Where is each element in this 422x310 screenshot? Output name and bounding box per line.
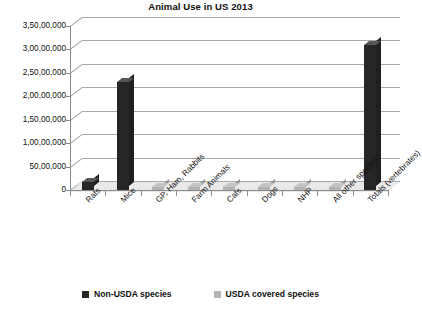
legend-swatch-icon	[214, 291, 221, 298]
y-axis-tick-label: 3,00,00,000	[23, 45, 66, 53]
y-axis-tick-label: 50,00,000	[30, 162, 66, 170]
gridline	[82, 17, 400, 18]
legend-label: USDA covered species	[226, 290, 319, 299]
x-axis-tick-label: Cats	[225, 186, 243, 204]
legend-label: Non-USDA species	[94, 290, 172, 299]
y-axis-tick-label: 3,50,00,000	[23, 22, 66, 30]
gridline-connector	[70, 87, 83, 97]
x-axis-tick-label: Rats	[84, 186, 102, 204]
y-axis-tick-label: 1,50,00,000	[23, 116, 66, 124]
x-axis-label-group: RatsMiceGP, Ham, RabbitsFarm AnimalsCats…	[0, 188, 401, 288]
gridline-connector	[70, 111, 83, 121]
legend-swatch-icon	[82, 291, 89, 298]
x-axis-tick-label: Mice	[119, 186, 138, 205]
x-axis-tick-label: NHP	[296, 186, 315, 205]
gridline-connector	[70, 64, 83, 74]
gridline	[82, 40, 400, 41]
y-axis-line	[70, 26, 71, 191]
chart-legend: Non-USDA speciesUSDA covered species	[0, 286, 401, 302]
gridline-connector	[70, 40, 83, 50]
y-axis-tick-label: 2,50,00,000	[23, 69, 66, 77]
legend-item[interactable]: USDA covered species	[214, 290, 319, 299]
gridline-connector	[70, 134, 83, 144]
gridline	[82, 64, 400, 65]
gridline-connector	[70, 17, 83, 27]
bar-side	[129, 74, 134, 186]
y-axis-tick-label: 2,00,00,000	[23, 92, 66, 100]
legend-item[interactable]: Non-USDA species	[82, 290, 172, 299]
gridline-connector	[70, 158, 83, 168]
bar	[117, 78, 129, 190]
y-axis-tick-label: 1,00,00,000	[23, 139, 66, 147]
x-axis-tick-label: Dogs	[260, 184, 280, 204]
y-axis-label-group: 050,00,0001,00,00,0001,50,00,0002,00,00,…	[0, 0, 66, 200]
bar-face	[117, 82, 129, 190]
